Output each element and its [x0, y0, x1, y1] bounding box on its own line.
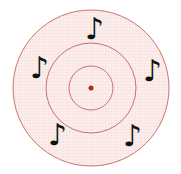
music-note-icon: ♪ [143, 56, 162, 86]
music-note-icon: ♪ [85, 14, 104, 44]
center-dot [89, 86, 94, 91]
music-note-icon: ♪ [123, 121, 142, 151]
music-note-icon: ♪ [48, 120, 67, 150]
music-note-icon: ♪ [30, 53, 49, 83]
